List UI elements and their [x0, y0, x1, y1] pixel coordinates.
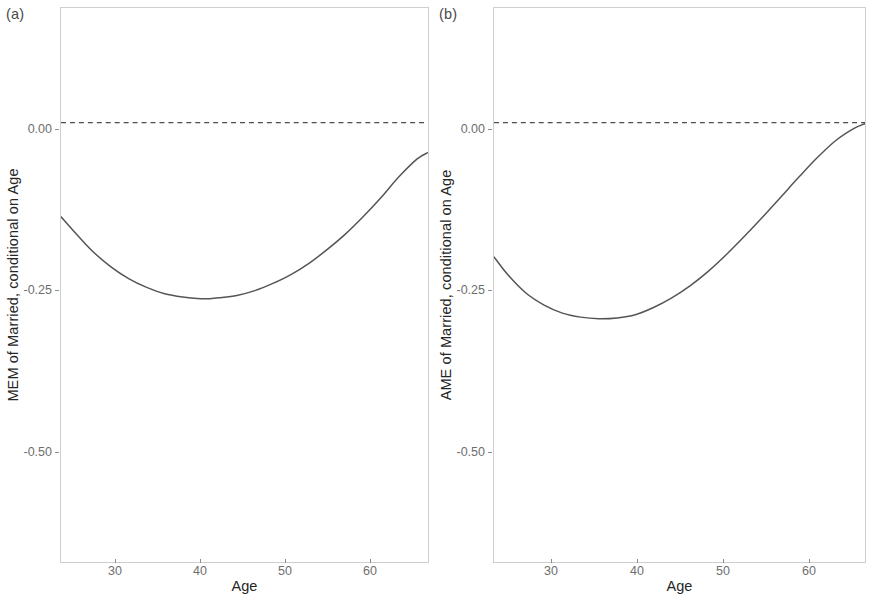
panel-a-xtick-mark-1 [200, 559, 201, 563]
panel-a-ytick-label-0: 0.00 [12, 122, 52, 136]
panel-b: (b) AME of Married, conditional on Age 0… [433, 0, 871, 603]
panel-b-xtick-mark-2 [723, 559, 724, 563]
panel-b-plot-svg [494, 8, 865, 562]
figure-container: (a) MEM of Married, conditional on Age 0… [0, 0, 871, 603]
panel-b-ytick-label-2: -0.50 [445, 445, 485, 459]
panel-b-ytick-mark-2 [488, 452, 492, 453]
panel-a-xtick-mark-0 [115, 559, 116, 563]
panel-a-mem-curve [61, 153, 428, 299]
panel-b-ytick-label-1: -0.25 [445, 283, 485, 297]
panel-b-xtick-label-1: 40 [630, 564, 644, 578]
panel-a-ytick-label-2: -0.50 [12, 445, 52, 459]
panel-b-ytick-label-0: 0.00 [445, 122, 485, 136]
panel-a-xtick-label-0: 30 [108, 564, 122, 578]
panel-a-xtick-mark-3 [370, 559, 371, 563]
panel-b-xtick-label-0: 30 [544, 564, 558, 578]
panel-b-xtick-mark-3 [809, 559, 810, 563]
panel-b-ame-curve [494, 124, 865, 319]
panel-a-ytick-label-1: -0.25 [12, 283, 52, 297]
panel-b-xtick-mark-1 [637, 559, 638, 563]
panel-b-ytick-mark-1 [488, 290, 492, 291]
panel-b-xtick-label-3: 60 [802, 564, 816, 578]
panel-a-ytick-mark-2 [55, 452, 59, 453]
panel-b-ytick-mark-0 [488, 129, 492, 130]
panel-a-xtick-label-2: 50 [278, 564, 292, 578]
panel-b-xtick-label-2: 50 [716, 564, 730, 578]
panel-a-ytick-mark-0 [55, 129, 59, 130]
panel-b-xtick-mark-0 [551, 559, 552, 563]
panel-a-xtick-mark-2 [285, 559, 286, 563]
panel-a-xtick-label-3: 60 [363, 564, 377, 578]
panel-a-plot-area [60, 7, 429, 563]
panel-a-xtick-label-1: 40 [193, 564, 207, 578]
panel-a-plot-svg [61, 8, 428, 562]
panel-a-ytick-mark-1 [55, 290, 59, 291]
panel-b-x-axis-title: Age [493, 578, 866, 594]
panel-a: (a) MEM of Married, conditional on Age 0… [0, 0, 440, 603]
panel-a-x-axis-title: Age [60, 578, 429, 594]
panel-b-plot-area [493, 7, 866, 563]
